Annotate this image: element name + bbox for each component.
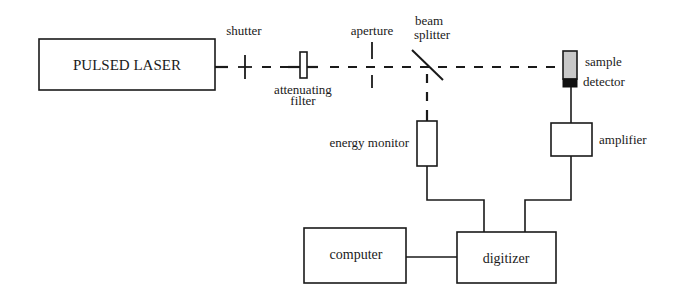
energy-monitor-label: energy monitor [329,135,409,150]
detector-label: detector [583,74,626,89]
aperture-label: aperture [351,23,394,38]
digitizer-label: digitizer [483,251,530,266]
sample-label: sample [585,54,622,69]
shutter: shutter [226,23,262,79]
digitizer-block: digitizer [457,232,556,283]
diagram-canvas: PULSED LASER shutter attenuating filter … [0,0,690,299]
pulsed-laser-block: PULSED LASER [39,39,215,90]
pulsed-laser-label: PULSED LASER [73,57,181,73]
aperture: aperture [351,23,394,88]
amplifier-block: amplifier [551,87,647,156]
beam-splitter-label-line2: splitter [414,27,451,42]
energy-monitor-block: energy monitor [329,121,437,166]
amplifier-label: amplifier [599,132,647,147]
laser-beam-path [215,67,563,121]
computer-block: computer [304,228,406,283]
shutter-label: shutter [226,23,262,38]
computer-label: computer [330,247,383,262]
attenuating-filter-label-line2: filter [290,93,316,108]
beam-splitter: beam splitter [412,13,451,80]
sample-detector: sample detector [563,51,626,89]
beam-splitter-label-line1: beam [415,13,443,28]
attenuating-filter: attenuating filter [274,52,332,108]
